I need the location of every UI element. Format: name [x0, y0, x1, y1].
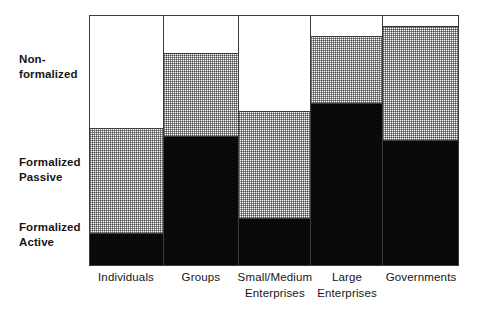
plot-area — [89, 15, 459, 266]
bar-segment-non-formalized — [239, 16, 310, 111]
bar-column-groups[interactable] — [164, 16, 239, 265]
x-axis-label-line1: Small/Medium — [238, 271, 313, 283]
bar-segment-non-formalized — [90, 16, 163, 128]
bar-segment-formalized-passive — [239, 111, 310, 218]
bar-column-large-enterprises[interactable] — [311, 16, 383, 265]
x-axis-label-large-enterprises: Large Enterprises — [317, 270, 377, 301]
x-axis-tick-small-medium-enterprises: Small/Medium Enterprises — [239, 270, 311, 314]
y-axis-label-formalized-passive: Formalized Passive — [19, 155, 81, 184]
x-axis-label-line1: Governments — [386, 271, 457, 283]
x-axis-labels: Individuals Groups Small/Medium Enterpri… — [89, 270, 459, 314]
x-axis-label-line1: Individuals — [98, 271, 154, 283]
x-axis-tick-large-enterprises: Large Enterprises — [311, 270, 383, 314]
bar-column-individuals[interactable] — [90, 16, 164, 265]
x-axis-label-individuals: Individuals — [98, 270, 154, 286]
x-axis-tick-governments: Governments — [383, 270, 459, 314]
bar-segment-non-formalized — [383, 16, 458, 26]
y-axis-label-non-formalized: Non- formalized — [19, 52, 78, 81]
y-axis-label-formalized-active: Formalized Active — [19, 220, 81, 249]
bar-column-governments[interactable] — [383, 16, 458, 265]
x-axis-label-line2: Enterprises — [317, 286, 377, 302]
stacked-bar-chart-figure: Non- formalized Formalized Passive Forma… — [0, 0, 483, 316]
bar-segment-formalized-passive — [383, 26, 458, 141]
bar-segment-non-formalized — [164, 16, 238, 53]
bar-segment-formalized-active — [164, 136, 238, 265]
bar-segment-formalized-active — [311, 103, 382, 265]
bar-segment-formalized-passive — [90, 128, 163, 233]
bar-segment-non-formalized — [311, 16, 382, 36]
x-axis-label-small-medium-enterprises: Small/Medium Enterprises — [238, 270, 313, 301]
bar-segment-formalized-active — [383, 140, 458, 265]
bar-segment-formalized-passive — [164, 53, 238, 135]
x-axis-label-line2: Enterprises — [238, 286, 313, 302]
bar-segment-formalized-passive — [311, 36, 382, 103]
x-axis-tick-individuals: Individuals — [89, 270, 163, 314]
bar-segment-formalized-active — [90, 233, 163, 265]
bar-column-small-medium-enterprises[interactable] — [239, 16, 311, 265]
x-axis-label-groups: Groups — [182, 270, 221, 286]
x-axis-tick-groups: Groups — [163, 270, 239, 314]
bar-segment-formalized-active — [239, 218, 310, 265]
x-axis-label-line1: Groups — [182, 271, 221, 283]
x-axis-label-line1: Large — [332, 271, 362, 283]
x-axis-label-governments: Governments — [386, 270, 457, 286]
